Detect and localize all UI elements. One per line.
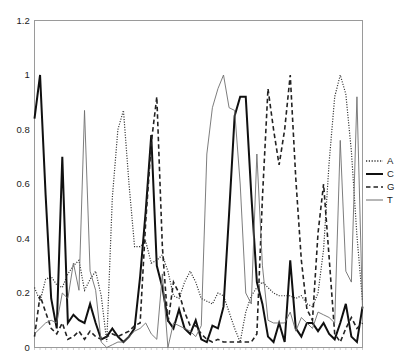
legend-sample-solid-thick-icon (366, 169, 383, 179)
chart-container: 1.2 1 0.8 0.6 0.4 0.2 0 A C G (0, 0, 411, 359)
legend-item-c: C (366, 167, 410, 180)
legend-item-a: A (366, 154, 410, 167)
legend-sample-dashed-icon (366, 182, 383, 192)
legend-label-g: G (387, 182, 394, 192)
legend-sample-solid-thin-icon (366, 195, 383, 205)
legend-item-t: T (366, 193, 410, 206)
legend-item-g: G (366, 180, 410, 193)
legend-label-t: T (387, 195, 393, 205)
legend: A C G T (366, 154, 410, 206)
legend-label-a: A (387, 156, 393, 166)
legend-label-c: C (387, 169, 394, 179)
plot-area (0, 0, 411, 359)
legend-sample-dotted-icon (366, 156, 383, 166)
